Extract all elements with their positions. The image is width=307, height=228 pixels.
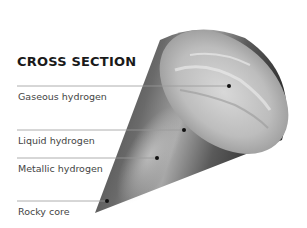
cone-illustration: [0, 0, 307, 228]
diagram-title: CROSS SECTION: [17, 54, 136, 69]
label-rocky-core: Rocky core: [18, 206, 70, 217]
label-gaseous-hydrogen: Gaseous hydrogen: [18, 91, 107, 102]
label-metallic-hydrogen: Metallic hydrogen: [18, 163, 103, 174]
label-liquid-hydrogen: Liquid hydrogen: [18, 135, 95, 146]
